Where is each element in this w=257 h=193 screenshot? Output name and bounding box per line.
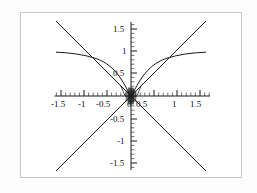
x-tick-label-origin: 0	[127, 100, 132, 109]
x-tick-label-1: 1	[172, 100, 177, 109]
figure-canvas: -1.5 -1 -0.5 0 0.5 1 1.5 1.5 1 0.5 -0.5 …	[0, 0, 257, 193]
x-tick-label-neg-0-5: -0.5	[96, 100, 110, 109]
y-tick-label-neg-1: -1	[117, 137, 125, 146]
x-tick-label-1-5: 1.5	[190, 100, 201, 109]
plot-area	[0, 0, 257, 193]
x-tick-label-neg-1: -1	[78, 100, 86, 109]
y-tick-label-neg-0-5: -0.5	[110, 115, 124, 124]
y-tick-label-1-5: 1.5	[113, 25, 124, 34]
x-tick-label-neg-1-5: -1.5	[51, 100, 65, 109]
y-tick-label-0-5: 0.5	[113, 69, 124, 78]
y-tick-label-neg-1-5: -1.5	[110, 159, 124, 168]
x-tick-label-0-5: 0.5	[136, 100, 147, 109]
y-tick-label-1: 1	[122, 47, 127, 56]
